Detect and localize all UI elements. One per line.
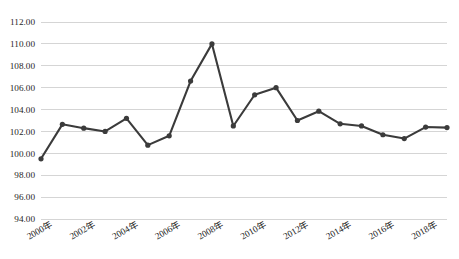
data-point-marker xyxy=(338,121,343,126)
data-point-marker xyxy=(38,156,43,161)
data-point-marker xyxy=(444,125,449,130)
chart-canvas: 112.00110.00108.00106.00104.00102.00100.… xyxy=(0,0,459,259)
data-point-marker xyxy=(60,122,65,127)
data-point-marker xyxy=(252,92,257,97)
data-point-marker xyxy=(103,129,108,134)
line-chart: 112.00110.00108.00106.00104.00102.00100.… xyxy=(0,0,459,259)
y-axis-tick-label: 106.00 xyxy=(10,83,36,93)
y-axis-tick-label: 94.00 xyxy=(14,214,35,224)
y-axis-tick-label: 112.00 xyxy=(10,17,35,27)
data-point-marker xyxy=(380,132,385,137)
data-point-marker xyxy=(295,118,300,123)
data-point-marker xyxy=(81,126,86,131)
data-point-marker xyxy=(145,143,150,148)
data-point-marker xyxy=(188,79,193,84)
data-point-marker xyxy=(402,136,407,141)
data-point-marker xyxy=(423,124,428,129)
data-point-marker xyxy=(167,133,172,138)
y-axis-tick-label: 98.00 xyxy=(14,170,35,180)
data-point-marker xyxy=(273,85,278,90)
data-point-marker xyxy=(124,116,129,121)
data-point-marker xyxy=(316,109,321,114)
y-axis-tick-label: 102.00 xyxy=(10,127,36,137)
y-axis-tick-label: 110.00 xyxy=(10,39,35,49)
y-axis-tick-label: 108.00 xyxy=(10,61,36,71)
data-point-marker xyxy=(359,123,364,128)
y-axis-tick-label: 104.00 xyxy=(10,105,36,115)
data-point-marker xyxy=(231,123,236,128)
y-axis-tick-label: 100.00 xyxy=(10,149,36,159)
y-axis-tick-label: 96.00 xyxy=(14,192,35,202)
data-point-marker xyxy=(209,41,214,46)
